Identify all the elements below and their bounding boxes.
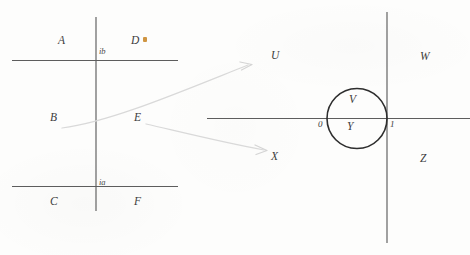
region-label-x: X xyxy=(271,150,278,162)
axis-tick-label-zero: 0 xyxy=(318,119,323,129)
region-label-u: U xyxy=(271,49,280,61)
diagram-vector-layer xyxy=(0,0,470,255)
region-label-w: W xyxy=(420,50,430,62)
region-label-e: E xyxy=(134,111,141,123)
axis-tick-label-one: 1 xyxy=(390,119,395,129)
region-label-a: A xyxy=(58,34,65,46)
region-label-b: B xyxy=(50,111,57,123)
axis-tick-label-ib: ib xyxy=(99,46,106,56)
figure-canvas: A B C D E F ib ia U V W X Y Z 0 1 xyxy=(0,0,470,255)
region-label-v: V xyxy=(349,93,356,105)
axis-tick-label-ia: ia xyxy=(99,177,106,187)
region-label-f: F xyxy=(134,195,141,207)
region-label-y: Y xyxy=(347,120,354,132)
orange-ink-mark xyxy=(143,37,147,42)
mapping-arrow-e-to-x xyxy=(146,124,264,150)
region-label-d: D xyxy=(131,34,140,46)
region-label-c: C xyxy=(50,195,58,207)
region-label-z: Z xyxy=(420,152,427,164)
